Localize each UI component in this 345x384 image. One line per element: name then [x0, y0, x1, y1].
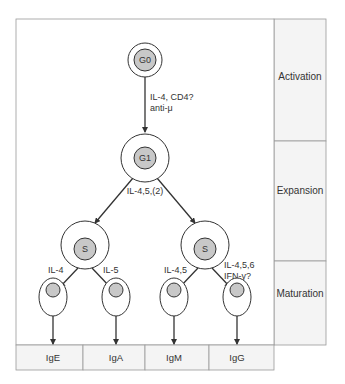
edge-label-igg-line1: IL-4,5,6	[224, 260, 255, 270]
edge-label-ige: IL-4	[48, 265, 64, 275]
plasma-cell-iga	[102, 278, 130, 316]
node-g0-label: G0	[139, 55, 151, 65]
stage-maturation-box	[274, 261, 326, 345]
plasma-cell-igm	[160, 278, 188, 316]
output-row: IgE IgA IgM IgG	[16, 345, 274, 370]
stage-expansion-label: Expansion	[277, 185, 324, 196]
node-s-right-label: S	[202, 244, 208, 254]
stage-maturation-label: Maturation	[276, 288, 323, 299]
plasma-cell-igg	[223, 278, 251, 316]
output-igg-label: IgG	[229, 352, 244, 363]
stage-activation-label: Activation	[278, 71, 321, 82]
edge-label-g0-g1-line2: anti-μ	[150, 103, 173, 113]
output-iga-label: IgA	[109, 352, 124, 363]
stage-expansion-box	[274, 141, 326, 261]
node-s-left-label: S	[82, 244, 88, 254]
output-igm-label: IgM	[166, 352, 182, 363]
output-ige-label: IgE	[46, 352, 60, 363]
stage-panel: Activation Expansion Maturation	[274, 19, 326, 345]
edge-label-g1-s: IL-4,5,(2)	[127, 186, 164, 196]
edge-label-iga: IL-5	[103, 265, 119, 275]
b-cell-differentiation-diagram: Activation Expansion Maturation IgE IgA …	[0, 0, 345, 384]
plasma-cell-ige	[39, 278, 67, 316]
edge-label-igm: IL-4,5	[164, 265, 187, 275]
node-g1-label: G1	[139, 153, 151, 163]
edge-label-g0-g1-line1: IL-4, CD4?	[150, 92, 194, 102]
